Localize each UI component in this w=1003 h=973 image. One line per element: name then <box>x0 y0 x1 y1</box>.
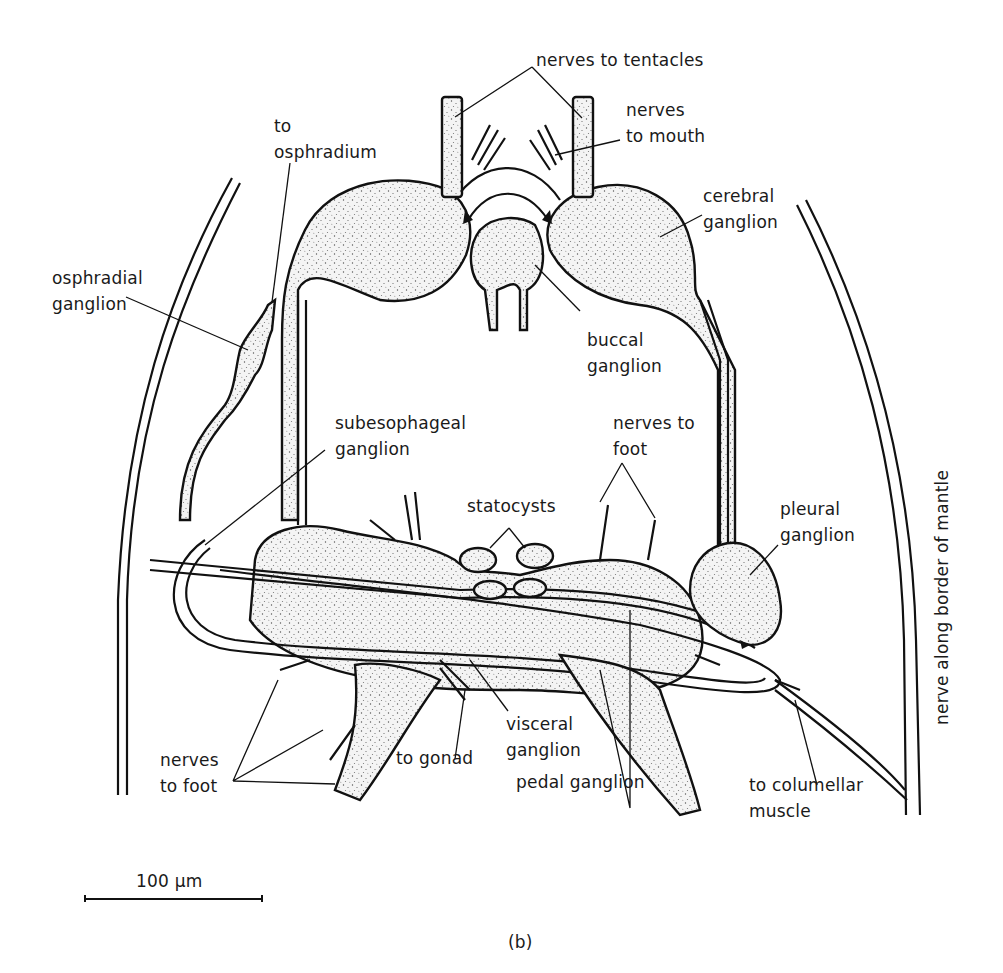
label-subesophageal-ganglion: subesophageal ganglion <box>335 410 466 462</box>
cerebral-commissure <box>455 168 560 200</box>
label-nerve-along-border-of-mantle: nerve along border of mantle <box>932 470 952 725</box>
left-statocyst <box>460 548 496 572</box>
label-osphradial-ganglion: osphradial ganglion <box>52 265 143 317</box>
osphradial-ganglion <box>180 300 275 520</box>
label-nerves-to-foot-upper: nerves to foot <box>613 410 695 462</box>
leader-lines <box>126 67 817 808</box>
label-statocysts: statocysts <box>467 496 556 516</box>
label-visceral-ganglion: visceral ganglion <box>506 711 581 763</box>
label-pleural-ganglion: pleural ganglion <box>780 496 855 548</box>
nervous-system-diagram <box>0 0 1003 973</box>
buccal-ganglion <box>471 218 543 330</box>
scale-bar <box>85 895 262 902</box>
label-buccal-ganglion: buccal ganglion <box>587 327 662 379</box>
pleural-ganglion <box>690 543 781 645</box>
scale-bar-label: 100 μm <box>136 871 202 891</box>
panel-label: (b) <box>508 932 533 952</box>
label-to-columellar-muscle: to columellar muscle <box>749 772 863 824</box>
label-to-gonad: to gonad <box>396 748 473 768</box>
right-mouth-nerves <box>530 125 562 170</box>
label-nerves-to-foot-lower: nerves to foot <box>160 747 219 799</box>
label-nerves-to-tentacles: nerves to tentacles <box>536 50 704 70</box>
left-mouth-nerves <box>472 125 505 170</box>
label-nerves-to-mouth: nerves to mouth <box>626 97 705 149</box>
label-pedal-ganglion: pedal ganglion <box>516 772 645 792</box>
label-cerebral-ganglion: cerebral ganglion <box>703 183 778 235</box>
right-statocyst <box>517 544 553 568</box>
label-to-osphradium: to osphradium <box>274 113 377 165</box>
left-tentacle-nerve <box>442 97 462 197</box>
left-cerebral-ganglion <box>282 180 470 520</box>
